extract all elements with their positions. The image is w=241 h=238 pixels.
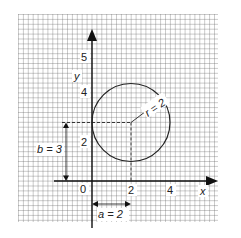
b-label: b = 3 <box>37 143 63 155</box>
x-axis-label: x <box>199 185 206 197</box>
x-tick-4: 4 <box>167 184 173 196</box>
a-label: a = 2 <box>98 208 123 220</box>
x-tick-2: 2 <box>128 184 134 196</box>
y-tick-4: 4 <box>81 86 87 98</box>
circle-diagram: y 5 4 2 0 2 4 x b = 3 a = 2 r = 2 <box>0 0 241 238</box>
y-tick-5: 5 <box>81 51 87 63</box>
y-tick-2: 2 <box>81 136 87 148</box>
origin-label: 0 <box>80 183 86 195</box>
graph-paper-grid <box>18 14 218 222</box>
